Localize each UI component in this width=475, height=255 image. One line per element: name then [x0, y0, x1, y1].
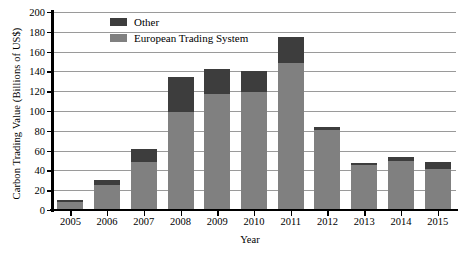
y-tick-label: 200: [29, 7, 45, 18]
x-axis-line: [50, 209, 458, 212]
bar-2014: [388, 157, 414, 210]
gridline: [52, 12, 456, 13]
bar-2011: [278, 37, 304, 210]
legend-label: European Trading System: [134, 32, 248, 44]
y-tick-label: 80: [35, 125, 46, 136]
bar-2010: [241, 71, 267, 210]
legend-label: Other: [134, 16, 159, 28]
bar-segment-european-trading-system: [204, 94, 230, 210]
y-tick-label: 140: [29, 66, 45, 77]
bar-segment-other: [241, 71, 267, 92]
carbon-trading-value-chart: Carbon Trading Value (Billions of US$) Y…: [0, 0, 475, 255]
bar-segment-european-trading-system: [94, 185, 120, 210]
x-axis-title: Year: [40, 234, 460, 245]
y-tick-label: 20: [35, 185, 46, 196]
y-tick-label: 40: [35, 165, 46, 176]
bar-segment-european-trading-system: [131, 162, 157, 210]
bar-2015: [425, 162, 451, 210]
bar-segment-other: [278, 37, 304, 64]
bar-2013: [351, 163, 377, 210]
y-tick-label: 0: [40, 205, 45, 216]
bar-segment-european-trading-system: [168, 112, 194, 210]
bar-segment-other: [168, 77, 194, 112]
legend-swatch-icon: [110, 18, 127, 26]
y-axis-line: [51, 10, 54, 212]
bar-segment-european-trading-system: [278, 63, 304, 210]
bar-2012: [314, 127, 340, 210]
bar-segment-other: [131, 149, 157, 163]
y-tick-label: 100: [29, 106, 45, 117]
gridline: [52, 52, 456, 53]
y-axis-title: Carbon Trading Value (Billions of US$): [11, 12, 22, 216]
bar-2008: [168, 77, 194, 210]
y-tick-label: 160: [29, 46, 45, 57]
y-tick-label: 120: [29, 86, 45, 97]
bar-segment-european-trading-system: [241, 92, 267, 210]
chart-legend: OtherEuropean Trading System: [110, 14, 248, 46]
bar-segment-european-trading-system: [425, 169, 451, 210]
bar-segment-other: [204, 69, 230, 94]
bar-segment-european-trading-system: [314, 130, 340, 210]
y-tick-label: 60: [35, 145, 46, 156]
bar-segment-other: [425, 162, 451, 170]
legend-item: Other: [110, 14, 248, 30]
bar-2006: [94, 180, 120, 210]
y-tick-label: 180: [29, 26, 45, 37]
bar-segment-european-trading-system: [351, 165, 377, 210]
x-tick-label: 2015: [415, 216, 461, 227]
bar-2007: [131, 149, 157, 210]
legend-item: European Trading System: [110, 30, 248, 46]
bar-segment-european-trading-system: [388, 161, 414, 211]
bar-2009: [204, 69, 230, 210]
legend-swatch-icon: [110, 34, 127, 42]
